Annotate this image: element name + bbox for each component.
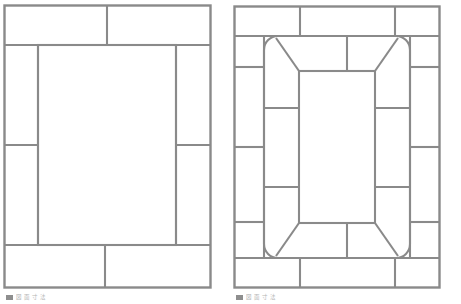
figure-left-rectangular-border [0,0,230,304]
miter-top-left [276,38,299,71]
inner-ring-field [299,71,375,223]
figure-right-rounded-miter-ring [230,0,461,304]
caption-right-text: 図 面 寸 法 [246,294,277,300]
diagram-canvas: 図 面 寸 法 図 面 寸 法 [0,0,461,304]
miter-top-right [375,38,398,71]
inner-ring-outer-boundary [264,36,410,258]
miter-bottom-left [276,223,299,256]
right-layout-svg [230,0,461,296]
left-layout-svg [0,0,230,296]
caption-right: 図 面 寸 法 [236,290,277,304]
caption-left-text: 図 面 寸 法 [16,294,47,300]
caption-swatch-icon [6,295,13,300]
outer-frame [235,7,440,288]
inner-field [38,45,176,245]
caption-left: 図 面 寸 法 [6,290,47,304]
caption-swatch-icon [236,295,243,300]
miter-bottom-right [375,223,398,256]
